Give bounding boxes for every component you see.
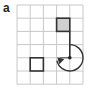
pivot-dot (68, 56, 72, 60)
shaded-cell (57, 18, 70, 31)
outlined-cell (30, 58, 43, 71)
grid-diagram (0, 0, 92, 92)
